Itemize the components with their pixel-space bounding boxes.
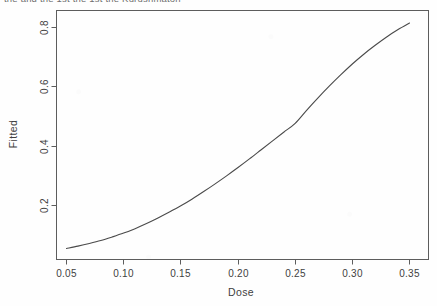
y-axis-ticks	[52, 28, 57, 206]
x-tick-label: 0.05	[56, 268, 77, 279]
x-tick-label: 0.15	[170, 268, 191, 279]
x-tick-label: 0.10	[113, 268, 134, 279]
x-tick-label: 0.35	[399, 268, 420, 279]
y-tick-label: 0.4	[39, 139, 50, 154]
x-axis-ticks	[67, 260, 410, 265]
fitted-dose-chart: 0.8 0.6 0.4 0.2 Fitted 0.05 0.10 0.15 0.…	[0, 0, 437, 306]
x-tick-label: 0.25	[285, 268, 306, 279]
y-tick-label: 0.8	[39, 20, 50, 35]
x-axis-title: Dose	[228, 286, 254, 298]
figure-page: the and the 1st the 1st the Kurushmaton …	[0, 0, 437, 306]
fitted-curve-line	[67, 23, 410, 248]
y-axis-tick-labels: 0.8 0.6 0.4 0.2	[39, 20, 50, 213]
x-tick-label: 0.30	[342, 268, 363, 279]
x-tick-label: 0.20	[228, 268, 249, 279]
x-axis-tick-labels: 0.05 0.10 0.15 0.20 0.25 0.30 0.35	[56, 268, 420, 279]
y-tick-label: 0.2	[39, 198, 50, 213]
y-axis-title: Fitted	[7, 120, 19, 149]
y-tick-label: 0.6	[39, 79, 50, 94]
